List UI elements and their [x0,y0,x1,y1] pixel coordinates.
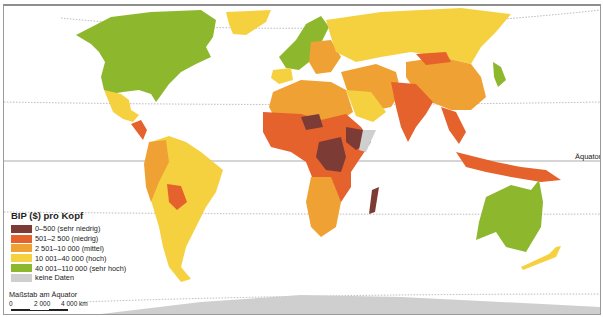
north-america-region [76,10,216,102]
legend: BIP ($) pro Kopf 0–500 (sehr niedrig) 50… [11,210,126,283]
legend-title: BIP ($) pro Kopf [11,210,126,221]
legend-item-medium: 2 501–10 000 (mittel) [11,244,126,254]
legend-swatch [11,244,32,252]
japan-region [493,62,506,87]
scale-ticks: 0 2 000 4 000 km [9,299,109,309]
mexico-region [104,90,139,122]
scale-tick-4000: 4 000 km [61,300,88,307]
australia-region [476,180,543,252]
scale-tick-2000: 2 000 [34,300,50,307]
scale-bar-graphic [11,309,68,311]
greenland-region [226,10,271,35]
equator-label: Äquator [575,152,601,161]
iberia-region [271,68,293,84]
legend-item-high: 10 001–40 000 (hoch) [11,253,126,263]
antarctica-region [101,295,600,314]
legend-swatch [11,274,32,282]
scale-tick-0: 0 [9,300,13,307]
scale-bar: Maßstab am Äquator 0 2 000 4 000 km [9,290,109,311]
legend-item-very-low: 0–500 (sehr niedrig) [11,224,126,234]
southeast-asia-region [441,107,466,144]
legend-item-very-high: 40 001–110 000 (sehr hoch) [11,263,126,273]
legend-swatch [11,264,32,272]
legend-swatch [11,254,32,262]
scale-title: Maßstab am Äquator [9,290,109,299]
madagascar-region [369,187,379,214]
legend-swatch [11,235,32,243]
central-america-region [131,120,147,140]
world-map-frame: Äquator BIP ($) pro Kopf 0–500 (sehr nie… [3,4,601,315]
indonesia-region [456,152,561,182]
legend-swatch [11,225,32,233]
legend-item-low: 501–2 500 (niedrig) [11,234,126,244]
legend-item-no-data: keine Daten [11,273,126,283]
